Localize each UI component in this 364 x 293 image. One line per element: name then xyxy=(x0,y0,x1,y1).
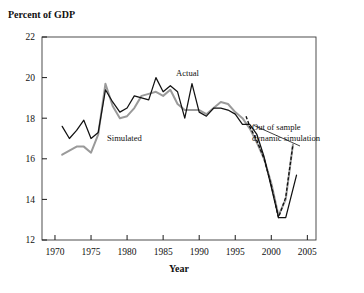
x-axis-tick-label: 1970 xyxy=(45,247,64,257)
annotation-simulated: Simulated xyxy=(107,133,143,143)
annotation-out-of-sample-line2: dynamic simulation xyxy=(252,133,321,143)
x-axis-tick-label: 2005 xyxy=(298,247,317,257)
chart-figure: 121416182022 197019751980198519901995200… xyxy=(0,0,364,293)
x-axis-ticks: 19701975198019851990199520002005 xyxy=(45,235,317,257)
y-axis-tick-label: 22 xyxy=(26,32,36,42)
x-axis-title: Year xyxy=(169,263,190,274)
x-axis-tick-label: 1975 xyxy=(82,247,101,257)
annotation-out-of-sample-line1: Out of sample xyxy=(252,122,301,132)
y-axis-tick-label: 12 xyxy=(26,235,36,245)
y-axis-ticks: 121416182022 xyxy=(26,32,48,245)
x-axis-tick-label: 1985 xyxy=(154,247,173,257)
x-axis-tick-label: 1995 xyxy=(226,247,245,257)
line-chart-svg: 121416182022 197019751980198519901995200… xyxy=(0,0,364,293)
y-axis-tick-label: 16 xyxy=(26,154,36,164)
y-axis-tick-label: 14 xyxy=(26,195,36,205)
x-axis-tick-label: 1980 xyxy=(118,247,137,257)
series-line-simulated xyxy=(62,84,293,216)
series-line-actual xyxy=(62,78,296,218)
y-axis-tick-label: 18 xyxy=(26,114,36,124)
annotation-actual: Actual xyxy=(176,68,200,78)
y-axis-tick-label: 20 xyxy=(26,73,36,83)
x-axis-tick-label: 1990 xyxy=(190,247,209,257)
y-axis-title: Percent of GDP xyxy=(8,9,75,20)
x-axis-tick-label: 2000 xyxy=(262,247,281,257)
